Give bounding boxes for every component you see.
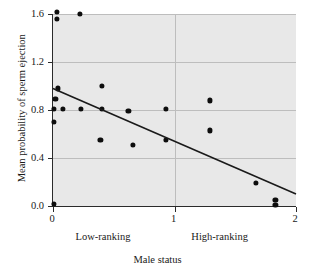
y-tick-label: 0.8 <box>31 105 44 116</box>
x-tick-label: 0 <box>32 214 72 225</box>
region-label: Low-ranking <box>53 232 153 243</box>
y-tick-label: 1.2 <box>31 57 44 68</box>
plot-area <box>52 14 296 207</box>
y-tick-label: 0.0 <box>31 201 44 212</box>
regression-trendline <box>53 14 296 206</box>
y-axis-title: Mean probability of sperm ejection <box>17 13 28 203</box>
x-tick-label: 1 <box>154 214 194 225</box>
x-axis-title: Male status <box>0 255 315 266</box>
region-label: High-ranking <box>170 232 270 243</box>
y-tick-label: 0.4 <box>31 153 44 164</box>
scatter-plot-figure: 0.00.40.81.21.6 012 Low-rankingHigh-rank… <box>0 0 315 274</box>
y-tick-label: 1.6 <box>31 9 44 20</box>
tick-mark-x <box>175 207 176 212</box>
tick-mark-x <box>53 207 54 212</box>
x-tick-label: 2 <box>275 214 315 225</box>
tick-mark-x <box>296 207 297 212</box>
